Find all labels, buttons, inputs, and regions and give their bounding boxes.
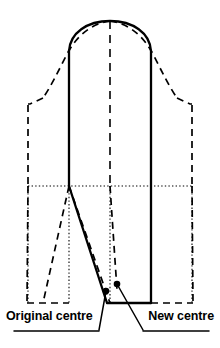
original-centre-dot	[103, 288, 110, 295]
original-centre-label: Original centre	[6, 309, 93, 323]
pattern-diagram-figure: Original centre New centre	[0, 0, 220, 348]
new-centre-label: New centre	[148, 309, 214, 323]
pattern-diagram-svg: Original centre New centre	[0, 0, 220, 348]
new-centre-dot	[114, 281, 121, 288]
